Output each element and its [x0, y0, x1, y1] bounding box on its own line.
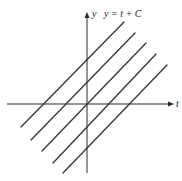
line-c-neg2 [63, 65, 167, 173]
y-axis-arrow-icon [85, 12, 90, 18]
t-axis-label: t [176, 98, 179, 109]
line-c-2 [21, 22, 124, 127]
equation-label: y = t + C [103, 8, 142, 19]
line-c-0 [42, 43, 146, 151]
t-axis-arrow-icon [168, 102, 174, 107]
line-c-1 [31, 33, 135, 140]
y-axis-label: y [91, 8, 97, 19]
solution-lines [21, 22, 167, 173]
direction-field-diagram: y y = t + C t [0, 0, 182, 181]
line-c-neg1 [53, 54, 156, 163]
